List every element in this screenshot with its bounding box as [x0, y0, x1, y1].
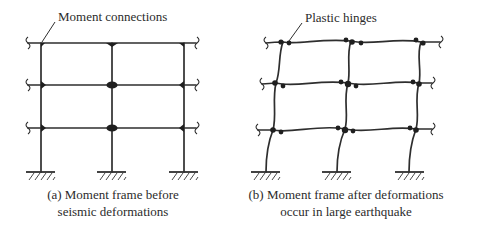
moment-frame-figure: Moment connections (a) Moment frame befo… — [0, 0, 478, 234]
fixed-support-icon — [26, 172, 55, 180]
panel-a-fixed-supports — [26, 172, 198, 180]
fixed-support-icon — [97, 172, 126, 180]
panel-b-caption-line2: occur in large earthquake — [280, 204, 412, 219]
panel-b-columns — [266, 41, 421, 172]
panel-b-fixed-supports — [251, 172, 424, 180]
fixed-support-icon — [251, 172, 280, 180]
fixed-support-icon — [395, 172, 424, 180]
fixed-support-icon — [169, 172, 198, 180]
panel-b-plastic-hinges — [270, 38, 425, 135]
plastic-hinges-label: Plastic hinges — [305, 10, 377, 25]
plastic-hinges-leader — [289, 23, 302, 41]
panel-a-caption-line2: seismic deformations — [58, 204, 169, 219]
panel-a-frame: Moment connections (a) Moment frame befo… — [26, 9, 199, 219]
fixed-support-icon — [322, 172, 351, 180]
panel-b-caption-line1: (b) Moment frame after deformations — [249, 187, 444, 202]
moment-connections-label: Moment connections — [58, 9, 167, 24]
diagram-canvas: Moment connections (a) Moment frame befo… — [0, 0, 478, 234]
moment-connections-leader — [42, 22, 55, 42]
panel-b-frame: Plastic hinges (b) Moment frame after de… — [249, 10, 444, 219]
panel-a-caption-line1: (a) Moment frame before — [47, 187, 179, 202]
panel-a-columns — [41, 43, 184, 172]
